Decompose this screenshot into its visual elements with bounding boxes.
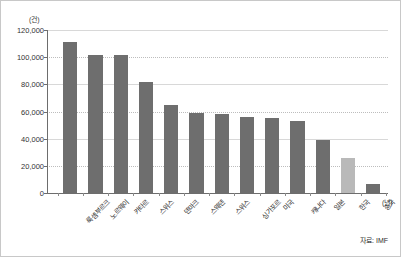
bar	[290, 121, 304, 193]
x-axis-category-label: 한국	[357, 197, 373, 213]
x-axis-category-label: 싱가포르	[259, 197, 283, 221]
x-axis-tick-mark	[83, 193, 84, 196]
bar	[189, 113, 203, 193]
x-axis-tick-mark	[335, 193, 336, 196]
x-axis-tick-mark	[108, 193, 109, 196]
bar	[63, 42, 77, 193]
x-axis-tick-mark	[260, 193, 261, 196]
x-axis-category-label: 캐나다	[308, 197, 328, 217]
x-axis-tick-mark	[234, 193, 235, 196]
x-axis-tick-mark	[310, 193, 311, 196]
bar	[114, 55, 128, 193]
x-axis-tick-mark	[184, 193, 185, 196]
bar	[240, 117, 254, 193]
x-axis-category-label-text: 일본	[331, 197, 347, 213]
x-axis-category-label: 스웨덴	[207, 197, 227, 217]
bar	[164, 105, 178, 193]
x-axis-unit-label: (년)	[382, 197, 393, 207]
x-axis-category-label-text: 스위스	[156, 197, 176, 217]
x-axis-category-label: 스위스	[156, 197, 176, 217]
x-axis-tick-mark	[209, 193, 210, 196]
x-axis-category-label: 미국	[281, 197, 297, 213]
chart-figure: (건) 020,00040,00060,00080,000100,000120,…	[0, 0, 401, 257]
plot-area	[47, 30, 388, 193]
bar	[265, 118, 279, 193]
bar	[88, 55, 102, 193]
y-axis-tick-label: 60,000	[21, 107, 44, 116]
y-axis-tick-label: 100,000	[17, 53, 44, 62]
bar	[215, 114, 229, 193]
x-axis-category-label-text: 싱가포르	[259, 197, 283, 221]
y-axis-unit-label: (건)	[29, 14, 40, 24]
x-axis-category-label-text: 캐나다	[308, 197, 328, 217]
y-axis-tick-label: 80,000	[21, 80, 44, 89]
x-axis-category-label-text: 노르웨이	[108, 197, 132, 221]
x-axis-category-label-text: 스위스	[232, 197, 252, 217]
x-axis-category-label: 덴마크	[182, 197, 202, 217]
x-axis-tick-mark	[285, 193, 286, 196]
x-axis-category-label: 스위스	[232, 197, 252, 217]
x-axis-tick-mark	[58, 193, 59, 196]
bar	[139, 82, 153, 193]
y-axis-tick-labels: 020,00040,00060,00080,000100,000120,000	[1, 30, 44, 193]
bar	[366, 184, 380, 194]
x-axis-category-label-text: 미국	[281, 197, 297, 213]
x-axis-category-labels: 룩셈부르크노르웨이카타르스위스덴마크스웨덴스위스싱가포르미국캐나다일본한국중국	[47, 197, 388, 243]
y-axis-tick-label: 120,000	[17, 26, 44, 35]
x-axis-tick-mark	[361, 193, 362, 196]
bar	[341, 158, 355, 193]
x-axis-category-label-text: 카타르	[131, 197, 151, 217]
x-axis-category-label: 카타르	[131, 197, 151, 217]
source-note: 자료: IMF	[360, 235, 388, 245]
x-axis-tick-mark	[386, 193, 387, 196]
x-axis-tick-mark	[159, 193, 160, 196]
x-axis-category-label-text: 스웨덴	[207, 197, 227, 217]
x-axis-tick-mark	[133, 193, 134, 196]
x-axis-category-label-text: 덴마크	[182, 197, 202, 217]
y-axis-tick-label: 40,000	[21, 134, 44, 143]
x-axis-category-label: 노르웨이	[108, 197, 132, 221]
bar-series	[47, 30, 388, 193]
x-axis-category-label-text: 한국	[357, 197, 373, 213]
bar	[316, 140, 330, 193]
y-axis-tick-label: 20,000	[21, 161, 44, 170]
x-axis-category-label: 일본	[331, 197, 347, 213]
